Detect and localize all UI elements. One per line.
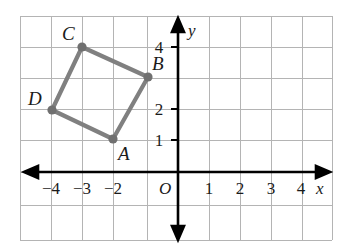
y-tick-label-4: 4: [150, 39, 168, 56]
coordinate-plane-figure: A B C D −4 −3 −2 1 2 3 4 4 2 1 O x y: [0, 0, 344, 251]
x-axis-left-arrow: [24, 166, 38, 178]
y-tick-label-1: 1: [150, 132, 168, 149]
point-c-label: C: [62, 24, 75, 43]
x-tick-label-2: 2: [225, 180, 255, 197]
x-tick-label-neg2: −2: [97, 180, 129, 197]
graph-canvas: [0, 0, 344, 251]
x-tick-label-3: 3: [256, 180, 286, 197]
point-a-marker: [108, 134, 117, 143]
grid-lines: [20, 16, 332, 240]
x-tick-label-4: 4: [286, 180, 316, 197]
point-d-marker: [47, 105, 56, 114]
y-axis-up-arrow: [172, 18, 184, 32]
point-a-label: A: [118, 144, 130, 163]
point-c-marker: [77, 42, 86, 51]
x-tick-label-neg3: −3: [66, 180, 98, 197]
y-tick-label-2: 2: [150, 101, 168, 118]
x-tick-label-1: 1: [194, 180, 224, 197]
origin-label: O: [159, 180, 171, 197]
y-axis-label: y: [188, 22, 196, 39]
point-d-label: D: [28, 89, 42, 108]
quadrilateral-abcd: [52, 47, 148, 139]
x-axis-label: x: [316, 180, 324, 197]
x-axis-right-arrow: [316, 166, 330, 178]
x-tick-label-neg4: −4: [35, 180, 67, 197]
axis-lines: [24, 18, 330, 240]
y-axis-down-arrow: [172, 226, 184, 240]
